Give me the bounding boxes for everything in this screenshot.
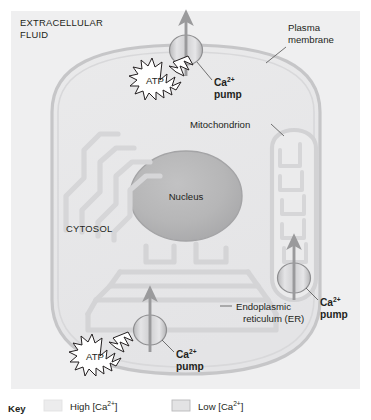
mitochondrion-label: Mitochondrion (190, 119, 250, 130)
pump-label-pump: pump (214, 89, 242, 100)
nucleus-label: Nucleus (169, 191, 204, 202)
plasma-membrane-label-line2: membrane (288, 34, 334, 45)
key-legend: Key High [Ca2+] Low [Ca2+] (8, 400, 243, 414)
key-swatch-low (172, 400, 190, 411)
cytosol-label: CYTOSOL (66, 223, 112, 234)
cell-diagram: Nucleus (0, 0, 371, 420)
pump-label-pump: pump (320, 309, 348, 320)
atp-label: ATP (86, 351, 104, 362)
key-title: Key (8, 403, 26, 414)
plasma-membrane-label-line1: Plasma (288, 22, 321, 33)
extracellular-fluid-label-line1: EXTRACELLULAR (20, 17, 103, 28)
cell-calcium-pump-figure: Nucleus (0, 0, 371, 420)
extracellular-fluid-label-line2: FLUID (20, 29, 48, 40)
pump-label-pump: pump (176, 361, 204, 372)
er-label-line2: reticulum (ER) (243, 313, 304, 324)
key-label-low: Low [Ca2+] (198, 400, 243, 412)
key-label-high: High [Ca2+] (70, 400, 118, 412)
atp-label: ATP (146, 75, 164, 86)
key-swatch-high (44, 400, 62, 411)
er-label-line1: Endoplasmic (236, 301, 291, 312)
